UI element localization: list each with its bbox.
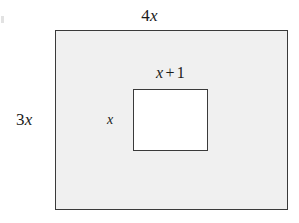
outer-height-coefficient: 3 [16,110,25,129]
inner-width-label: x+1 [133,65,208,81]
inner-height-label: x [107,113,114,127]
outer-width-variable: x [150,6,158,25]
inner-width-constant: 1 [177,64,185,81]
inner-rectangle [133,89,208,151]
outer-width-label: 4x [0,7,299,24]
inner-width-operator: + [165,64,174,81]
inner-width-variable: x [156,64,163,81]
geometry-figure: 4x 3x x+1 x [0,0,299,223]
outer-height-label: 3x [16,111,33,128]
outer-height-variable: x [25,110,33,129]
inner-height-variable: x [107,112,114,127]
outer-width-coefficient: 4 [141,6,150,25]
